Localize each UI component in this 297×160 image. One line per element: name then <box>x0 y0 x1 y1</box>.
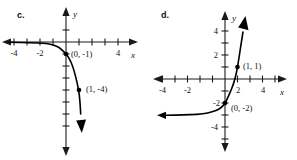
x-axis-right-arrow-icon <box>278 75 287 82</box>
point-1-1 <box>235 65 240 70</box>
annotation-1-1-d: (1, 1) <box>243 61 262 71</box>
y-axis-d <box>221 11 228 152</box>
curve-d-left-arrow-icon <box>157 112 166 119</box>
x-ticklabel-neg2-c: -2 <box>36 48 43 58</box>
x-axis-left-arrow-icon <box>153 75 162 82</box>
point-0-neg2 <box>223 101 228 106</box>
annotation-0-neg1-c: (0, -1) <box>71 49 92 59</box>
figure-root: c. <box>0 0 297 160</box>
y-axis-down-arrow-icon <box>221 143 228 152</box>
x-ticklabel-neg4-c: -4 <box>10 48 18 58</box>
point-0-neg1 <box>64 52 69 57</box>
y-ticklabel-neg4-d: -4 <box>211 122 219 132</box>
curve-c-arrow-icon <box>76 120 86 134</box>
y-ticklabel-neg2-d: -2 <box>213 98 220 108</box>
y-axis-c <box>62 7 69 156</box>
x-ticklabel-4-d: 4 <box>261 85 266 95</box>
x-axis-right-arrow-icon <box>129 38 138 45</box>
point-1-neg4 <box>77 88 82 93</box>
panel-d-graph: -4 -2 2 4 4 2 -2 -4 x y (1, 1) (0, -2) <box>148 0 297 160</box>
x-ticklabel-2-d: 2 <box>236 85 240 95</box>
curve-d-up-arrow-icon <box>238 16 248 30</box>
y-axis-name-c: y <box>72 9 77 19</box>
annotation-0-neg2-d: (0, -2) <box>231 103 252 113</box>
y-axis-name-d: y <box>231 13 236 23</box>
x-ticklabel-neg4-d: -4 <box>159 85 167 95</box>
panel-d: d. <box>148 0 297 160</box>
y-axis-down-arrow-icon <box>62 147 69 156</box>
y-ticklabel-2-d: 2 <box>214 50 218 60</box>
panel-c-graph: -4 -2 4 x y (0, -1) (1, -4) <box>0 0 148 160</box>
annotation-1-neg4-c: (1, -4) <box>86 84 107 94</box>
x-ticklabel-neg2-d: -2 <box>184 85 191 95</box>
y-axis-up-arrow-icon <box>221 11 228 20</box>
x-axis-name-d: x <box>279 87 284 97</box>
panel-c: c. <box>0 0 148 160</box>
x-axis-d <box>153 75 287 82</box>
x-axis-name-c: x <box>130 50 135 60</box>
y-axis-up-arrow-icon <box>62 7 69 16</box>
y-ticklabel-4-d: 4 <box>214 26 219 36</box>
x-ticklabel-4-c: 4 <box>116 48 121 58</box>
